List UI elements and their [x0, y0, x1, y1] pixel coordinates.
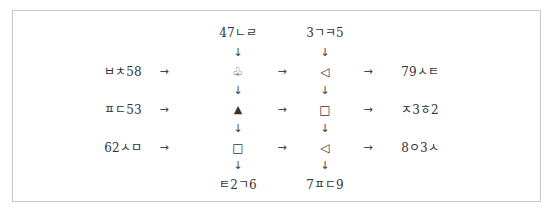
- top-input-col2: 3ㄱㅋ5: [306, 26, 343, 40]
- square-icon: □: [232, 141, 243, 155]
- down-arrow-icon: ↓: [233, 84, 242, 98]
- right-arrow-icon: →: [363, 65, 372, 79]
- down-arrow-icon: ↓: [320, 46, 329, 60]
- right-arrow-icon: →: [159, 103, 168, 117]
- row2-left-label: ㅍㄷ53: [104, 103, 141, 117]
- row3-right-label: 8ㅇ3ㅅ: [401, 141, 438, 155]
- down-arrow-icon: ↓: [233, 159, 242, 173]
- bottom-output-col2: 7ㅍㄷ9: [306, 178, 343, 192]
- filled-triangle-icon: ▲: [234, 103, 242, 117]
- row3-left-label: 62ㅅㅁ: [104, 141, 141, 155]
- down-arrow-icon: ↓: [320, 84, 329, 98]
- left-triangle-icon: ◁: [320, 65, 329, 79]
- right-arrow-icon: →: [277, 141, 286, 155]
- right-arrow-icon: →: [363, 141, 372, 155]
- row1-left-label: ㅂㅊ58: [104, 65, 141, 79]
- right-arrow-icon: →: [277, 65, 286, 79]
- right-arrow-icon: →: [159, 141, 168, 155]
- down-arrow-icon: ↓: [233, 46, 242, 60]
- top-input-col1: 47ㄴㄹ: [219, 26, 256, 40]
- right-arrow-icon: →: [363, 103, 372, 117]
- right-arrow-icon: →: [277, 103, 286, 117]
- row1-right-label: 79ㅅㅌ: [401, 65, 438, 79]
- row2-right-label: ㅈ3ㅎ2: [401, 103, 438, 117]
- down-arrow-icon: ↓: [320, 159, 329, 173]
- club-suit-icon: ♧: [233, 65, 244, 79]
- down-arrow-icon: ↓: [233, 122, 242, 136]
- right-arrow-icon: →: [159, 65, 168, 79]
- left-triangle-icon: ◁: [320, 141, 329, 155]
- down-arrow-icon: ↓: [320, 122, 329, 136]
- bottom-output-col1: ㅌ2ㄱ6: [219, 178, 256, 192]
- square-icon: □: [319, 103, 330, 117]
